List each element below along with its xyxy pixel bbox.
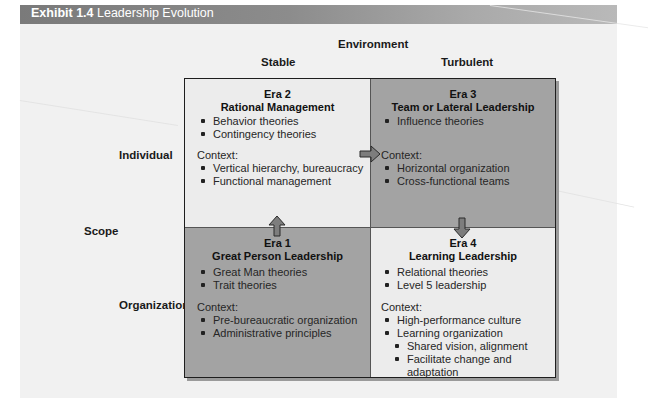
theory-item: Great Man theories <box>197 266 307 279</box>
theory-item: Relational theories <box>381 266 488 279</box>
environment-stable-label: Stable <box>261 56 296 68</box>
era-3-cell: Era 3 Team or Lateral Leadership Influen… <box>371 79 555 228</box>
context-subitem: Facilitate change and adaptation <box>381 353 531 379</box>
theory-item: Behavior theories <box>197 115 316 128</box>
context-subitem: Shared vision, alignment <box>381 340 531 353</box>
exhibit-number: Exhibit 1.4 <box>31 6 94 20</box>
scope-organization-label: Organization <box>119 299 189 311</box>
theory-item: Contingency theories <box>197 128 316 141</box>
era-1-theories: Great Man theories Trait theories <box>197 266 307 292</box>
era-1-title: Era 1 Great Person Leadership <box>185 237 370 263</box>
era-4-theories: Relational theories Level 5 leadership <box>381 266 488 292</box>
theory-item: Trait theories <box>197 279 307 292</box>
context-item: Learning organization <box>381 327 551 340</box>
scope-axis-label: Scope <box>84 225 119 237</box>
theory-item: Influence theories <box>381 115 484 128</box>
era-4-cell: Era 4 Learning Leadership Relational the… <box>371 228 555 377</box>
exhibit-title-text: Leadership Evolution <box>97 6 214 20</box>
era-3-label: Era 3 <box>371 88 555 101</box>
era-1-name: Great Person Leadership <box>185 250 370 263</box>
arrow-down-icon <box>453 217 471 239</box>
context-item: Administrative principles <box>197 327 357 340</box>
scope-individual-label: Individual <box>119 149 173 161</box>
environment-turbulent-label: Turbulent <box>441 56 493 68</box>
era-3-context-label: Context: <box>381 149 510 162</box>
era-1-context-label: Context: <box>197 301 357 314</box>
era-2-theories: Behavior theories Contingency theories <box>197 115 316 141</box>
era-4-context: High-performance culture Learning organi… <box>381 314 551 340</box>
era-1-label: Era 1 <box>185 237 370 250</box>
context-item: Cross-functional teams <box>381 175 510 188</box>
arrow-up-icon <box>268 215 286 237</box>
context-item: Horizontal organization <box>381 162 510 175</box>
era-3-title: Era 3 Team or Lateral Leadership <box>371 88 555 114</box>
era-2-label: Era 2 <box>185 88 370 101</box>
era-4-context-sub: Shared vision, alignment Facilitate chan… <box>381 340 531 379</box>
theory-item: Level 5 leadership <box>381 279 488 292</box>
context-item: Functional management <box>197 175 363 188</box>
exhibit-title: Exhibit 1.4 Leadership Evolution <box>31 6 214 20</box>
context-item: Vertical hierarchy, bureaucracy <box>197 162 363 175</box>
era-1-cell: Era 1 Great Person Leadership Great Man … <box>185 228 371 377</box>
era-4-context-label: Context: <box>381 301 551 314</box>
era-2-context-label: Context: <box>197 149 363 162</box>
context-item: Pre-bureaucratic organization <box>197 314 357 327</box>
leadership-matrix: Era 2 Rational Management Behavior theor… <box>184 78 556 378</box>
era-3-theories: Influence theories <box>381 115 484 128</box>
era-3-context: Horizontal organization Cross-functional… <box>381 162 510 188</box>
era-1-context: Pre-bureaucratic organization Administra… <box>197 314 357 340</box>
era-2-cell: Era 2 Rational Management Behavior theor… <box>185 79 371 228</box>
era-4-title: Era 4 Learning Leadership <box>371 237 555 263</box>
era-2-context: Vertical hierarchy, bureaucracy Function… <box>197 162 363 188</box>
context-item: High-performance culture <box>381 314 551 327</box>
era-2-name: Rational Management <box>185 101 370 114</box>
era-3-name: Team or Lateral Leadership <box>371 101 555 114</box>
era-4-name: Learning Leadership <box>371 250 555 263</box>
arrow-right-icon <box>359 145 381 163</box>
era-2-title: Era 2 Rational Management <box>185 88 370 114</box>
environment-axis-label: Environment <box>338 38 408 50</box>
